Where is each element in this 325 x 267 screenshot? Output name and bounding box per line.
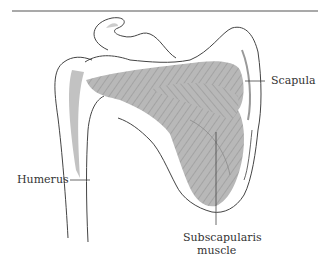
subscapularis-muscle — [86, 61, 244, 206]
shoulder-anatomy-illustration — [0, 0, 325, 267]
label-subscapularis-line2: muscle — [197, 245, 236, 257]
label-humerus: Humerus — [17, 174, 69, 186]
coracoid-process — [94, 18, 176, 58]
label-subscapularis-line1: Subscapularis — [183, 232, 262, 244]
label-scapula: Scapula — [271, 75, 315, 87]
